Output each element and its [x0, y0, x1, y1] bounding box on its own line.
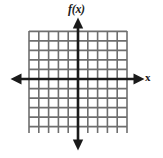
- y-axis: [73, 18, 83, 151]
- coordinate-grid-svg: [0, 0, 163, 158]
- y-axis-arrow-down-icon: [73, 140, 83, 151]
- x-axis-arrow-right-icon: [134, 74, 145, 85]
- y-axis-label: f(x): [68, 3, 85, 15]
- x-axis-arrow-left-icon: [11, 74, 22, 85]
- graph-figure: f(x) x: [0, 0, 163, 158]
- x-axis-label: x: [145, 72, 151, 83]
- y-axis-arrow-up-icon: [73, 18, 83, 29]
